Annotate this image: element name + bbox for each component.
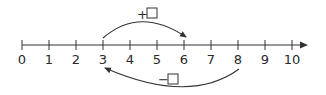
forward-jump-sign: +: [137, 7, 148, 22]
axis-arrow-icon: [300, 42, 308, 49]
number-line-diagram: 012345678910 + −: [0, 0, 326, 95]
tick-label-9: 9: [261, 52, 269, 67]
tick-label-8: 8: [234, 52, 242, 67]
tick-label-5: 5: [153, 52, 161, 67]
forward-jump-arrow-icon: [103, 22, 186, 38]
tick-label-4: 4: [126, 52, 134, 67]
tick-label-2: 2: [72, 52, 80, 67]
backward-jump-sign: −: [158, 72, 169, 87]
tick-labels: 012345678910: [18, 52, 300, 67]
backward-jump-blank-box: [168, 74, 178, 84]
tick-label-10: 10: [284, 52, 301, 67]
forward-jump: +: [103, 7, 186, 38]
forward-jump-blank-box: [147, 8, 157, 18]
tick-label-3: 3: [99, 52, 107, 67]
tick-label-1: 1: [45, 52, 53, 67]
tick-label-7: 7: [207, 52, 215, 67]
tick-label-6: 6: [180, 52, 188, 67]
backward-jump: −: [105, 68, 239, 87]
tick-label-0: 0: [18, 52, 26, 67]
